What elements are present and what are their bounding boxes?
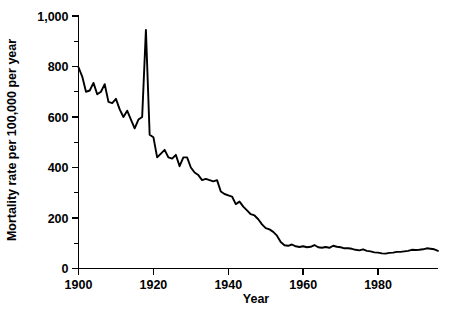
y-tick-label: 400 <box>48 161 69 175</box>
chart-page: 02004006008001,00019001920194019601980 Y… <box>0 0 451 314</box>
y-axis-title: Mortality rate per 100,000 per year <box>5 39 19 241</box>
y-tick-label: 600 <box>48 111 69 125</box>
x-tick-label: 1900 <box>65 278 93 292</box>
x-tick-label: 1940 <box>214 278 242 292</box>
y-tick-label: 1,000 <box>37 10 68 24</box>
x-tick-label: 1980 <box>364 278 392 292</box>
y-tick-label: 800 <box>48 60 69 74</box>
mortality-series-line <box>79 30 439 254</box>
y-tick-label: 0 <box>62 262 69 276</box>
x-axis-title: Year <box>243 292 270 306</box>
axis-tick-labels: 02004006008001,00019001920194019601980 <box>37 10 392 292</box>
mortality-line-chart: 02004006008001,00019001920194019601980 Y… <box>0 0 451 314</box>
x-tick-label: 1920 <box>139 278 167 292</box>
x-tick-label: 1960 <box>289 278 317 292</box>
y-tick-label: 200 <box>48 212 69 226</box>
axis-ticks <box>72 16 378 275</box>
plot-area <box>79 30 439 254</box>
